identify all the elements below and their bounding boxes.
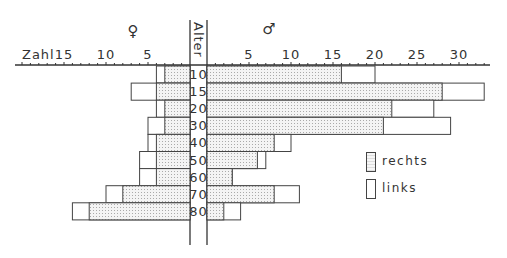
age-label: 60 [189,170,208,185]
female-rechts-bar [165,66,190,83]
legend-swatch-white [366,179,376,199]
age-label: 10 [189,67,208,82]
male-rechts-bar [207,169,232,186]
age-label: 70 [189,187,208,202]
male-rechts-bar [207,152,257,169]
center-label-alter: Alter [191,22,206,58]
tick-label: 20 [366,47,385,62]
male-rechts-bar [207,83,442,100]
age-label: 30 [189,118,208,133]
age-label: 40 [189,135,208,150]
tick-label: 10 [282,47,301,62]
male-rechts-bar [207,203,224,220]
female-rechts-bar [89,203,190,220]
tick-label: 15 [55,47,74,62]
female-rechts-bar [165,117,190,134]
age-label: 15 [189,84,208,99]
male-symbol: ♂ [262,20,275,38]
tick-label: 10 [97,47,116,62]
male-rechts-bar [207,100,392,117]
tick-label: 15 [324,47,343,62]
female-rechts-bar [156,152,190,169]
legend-label-rechts: rechts [382,154,428,168]
female-rechts-bar [123,186,190,203]
male-rechts-bar [207,117,383,134]
tick-label: 5 [143,47,152,62]
legend-swatch-dotted [366,152,376,172]
female-rechts-bar [165,100,190,117]
bars [72,66,484,220]
female-rechts-bar [156,134,190,151]
age-label: 80 [189,204,208,219]
age-label: 50 [189,153,208,168]
tick-label: 5 [244,47,253,62]
axis-label-zahl: Zahl [22,47,55,62]
butterfly-bar-chart: 1510551015202530Zahl♀♂Alter1015203040506… [0,0,507,258]
legend-label-links: links [382,181,417,195]
male-rechts-bar [207,134,274,151]
tick-label: 30 [450,47,469,62]
tick-label: 25 [408,47,427,62]
female-rechts-bar [156,83,190,100]
age-label: 20 [189,101,208,116]
female-symbol: ♀ [128,22,139,40]
male-rechts-bar [207,66,341,83]
female-rechts-bar [156,169,190,186]
male-rechts-bar [207,186,274,203]
